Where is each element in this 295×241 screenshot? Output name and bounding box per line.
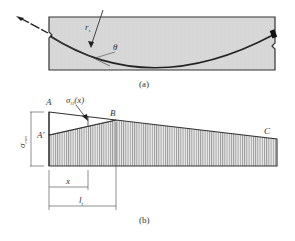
point-c-label: C	[264, 126, 271, 136]
caption-b: (b)	[139, 215, 150, 225]
angle-label: θ	[113, 42, 118, 52]
dim-x-label: x	[65, 176, 70, 186]
stress-diagram: σcon A A′ B C σl1(x) x lf	[17, 95, 277, 210]
dim-lf-label: lf	[79, 195, 84, 206]
point-a-prime-label: A′	[36, 130, 45, 140]
point-a-label: A	[45, 97, 52, 107]
prestress-loss-diagram: rs θ (a) σcon A A′ B C σl1(x) x lf	[0, 0, 295, 241]
stress-function-label: σl1(x)	[66, 95, 84, 106]
point-b-label: B	[110, 108, 116, 118]
sigma-con-label: σcon	[17, 136, 28, 148]
caption-a: (a)	[139, 79, 149, 89]
beam-section: rs θ	[16, 10, 277, 70]
